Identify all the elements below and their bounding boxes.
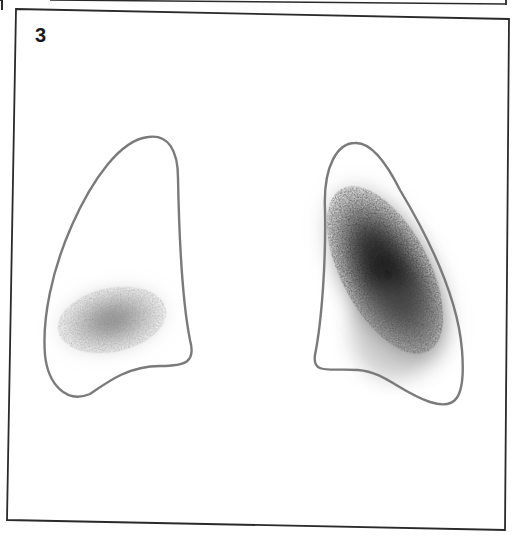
upper-panel-edge	[0, 0, 2, 10]
upper-panel-frame	[50, 0, 506, 4]
figure-panel: 3	[0, 0, 519, 537]
lung-scan-diagram	[0, 0, 519, 537]
left-lung-uptake	[46, 274, 178, 365]
left-lung-outline	[44, 137, 191, 397]
right-lung-uptake	[293, 158, 483, 392]
panel-number-label: 3	[35, 24, 46, 47]
